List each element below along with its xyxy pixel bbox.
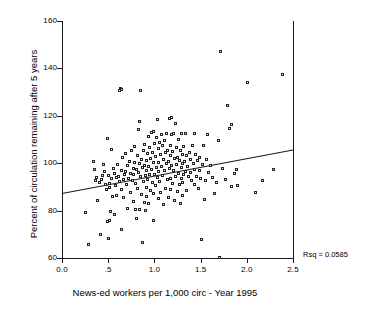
data-point bbox=[184, 132, 187, 135]
data-point bbox=[203, 198, 206, 201]
data-point bbox=[134, 182, 137, 185]
data-point bbox=[151, 151, 154, 154]
data-point bbox=[226, 104, 229, 107]
data-point bbox=[221, 167, 224, 170]
data-point bbox=[177, 172, 180, 175]
data-point bbox=[108, 182, 111, 185]
scatter-plot-figure: 60801001201401600.0.51.01.52.02.5 Percen… bbox=[0, 0, 385, 311]
data-point bbox=[157, 197, 160, 200]
data-point bbox=[185, 189, 188, 192]
data-point bbox=[115, 194, 118, 197]
data-point bbox=[163, 139, 166, 142]
x-tick-mark bbox=[201, 258, 202, 263]
data-point bbox=[94, 179, 97, 182]
data-point bbox=[173, 199, 176, 202]
data-point bbox=[142, 180, 145, 183]
data-point bbox=[114, 184, 117, 187]
x-tick-label: .5 bbox=[88, 265, 128, 274]
data-point bbox=[192, 162, 195, 165]
data-point bbox=[176, 190, 179, 193]
data-point bbox=[167, 160, 170, 163]
data-point bbox=[190, 179, 193, 182]
data-point bbox=[272, 168, 275, 171]
data-point bbox=[169, 188, 172, 191]
data-point bbox=[132, 200, 135, 203]
data-point bbox=[181, 194, 184, 197]
data-point bbox=[113, 213, 116, 216]
data-point bbox=[92, 160, 95, 163]
data-point bbox=[118, 180, 121, 183]
data-point bbox=[145, 159, 148, 162]
data-point bbox=[116, 163, 119, 166]
data-point bbox=[124, 152, 127, 155]
data-point bbox=[178, 159, 181, 162]
data-point bbox=[145, 186, 148, 189]
data-point bbox=[136, 154, 139, 157]
data-point bbox=[117, 175, 120, 178]
data-point bbox=[211, 176, 214, 179]
data-point bbox=[96, 199, 99, 202]
data-point bbox=[152, 161, 155, 164]
data-point bbox=[184, 170, 187, 173]
data-point bbox=[180, 166, 183, 169]
data-point bbox=[161, 144, 164, 147]
data-point bbox=[99, 233, 102, 236]
data-point bbox=[104, 183, 107, 186]
data-point bbox=[108, 219, 111, 222]
data-point bbox=[254, 191, 257, 194]
data-point bbox=[164, 151, 167, 154]
data-point bbox=[93, 168, 96, 171]
data-point bbox=[110, 148, 113, 151]
data-point bbox=[145, 195, 148, 198]
data-point bbox=[159, 191, 162, 194]
data-point bbox=[165, 132, 168, 135]
data-point bbox=[182, 173, 185, 176]
data-point bbox=[189, 158, 192, 161]
data-point bbox=[132, 167, 135, 170]
data-point bbox=[236, 184, 239, 187]
data-point bbox=[193, 168, 196, 171]
data-point bbox=[166, 149, 169, 152]
x-axis-line bbox=[62, 258, 294, 259]
data-point bbox=[153, 142, 156, 145]
data-point bbox=[139, 175, 142, 178]
data-point bbox=[144, 174, 147, 177]
data-point bbox=[137, 128, 140, 131]
data-point bbox=[146, 152, 149, 155]
data-point bbox=[161, 174, 164, 177]
data-point bbox=[130, 149, 133, 152]
data-point bbox=[213, 192, 216, 195]
data-point bbox=[137, 171, 140, 174]
data-point bbox=[196, 159, 199, 162]
data-point bbox=[120, 228, 123, 231]
data-point bbox=[145, 169, 148, 172]
data-point bbox=[188, 151, 191, 154]
data-point bbox=[147, 202, 150, 205]
data-point bbox=[175, 163, 178, 166]
data-point bbox=[142, 149, 145, 152]
data-point bbox=[160, 133, 163, 136]
data-point bbox=[194, 153, 197, 156]
y-tick-label-wrap: 160 bbox=[0, 17, 57, 25]
data-point bbox=[179, 202, 182, 205]
data-point bbox=[122, 178, 125, 181]
data-point bbox=[141, 241, 144, 244]
data-point bbox=[219, 50, 222, 53]
data-point bbox=[135, 217, 138, 220]
x-axis-title: News-ed workers per 1,000 circ - Year 19… bbox=[0, 287, 330, 298]
data-point bbox=[108, 186, 111, 189]
data-point bbox=[201, 163, 204, 166]
data-point bbox=[129, 191, 132, 194]
data-point bbox=[140, 193, 143, 196]
data-point bbox=[120, 169, 123, 172]
data-point bbox=[128, 160, 131, 163]
data-point bbox=[140, 158, 143, 161]
data-point bbox=[133, 145, 136, 148]
data-point bbox=[103, 170, 106, 173]
data-point bbox=[150, 168, 153, 171]
data-point bbox=[154, 184, 157, 187]
x-tick-mark bbox=[247, 258, 248, 263]
data-point bbox=[177, 138, 180, 141]
data-point bbox=[155, 136, 158, 139]
data-point bbox=[109, 210, 112, 213]
